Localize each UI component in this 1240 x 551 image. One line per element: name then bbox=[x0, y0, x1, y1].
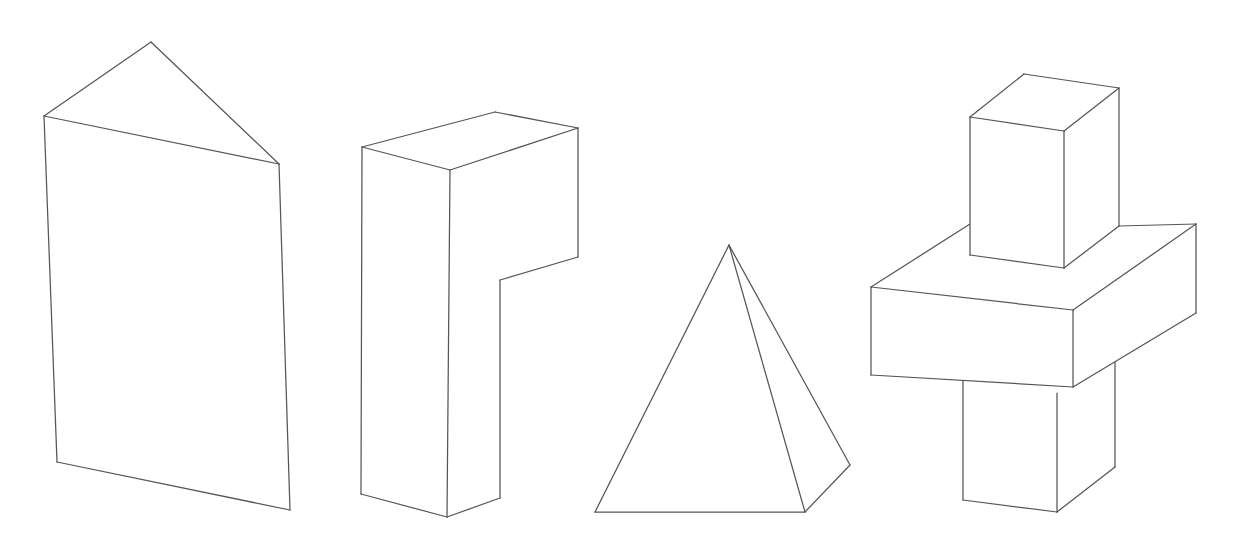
stacked-boxes-top-box bbox=[970, 74, 1119, 268]
top-box-front-left-face bbox=[970, 117, 1064, 268]
geometric-solids-figure bbox=[0, 0, 1240, 551]
pentagonal-prism-front-face bbox=[44, 116, 290, 510]
bottom-column-front-left-face bbox=[963, 381, 1057, 512]
l-block-left-front-face bbox=[361, 147, 450, 517]
